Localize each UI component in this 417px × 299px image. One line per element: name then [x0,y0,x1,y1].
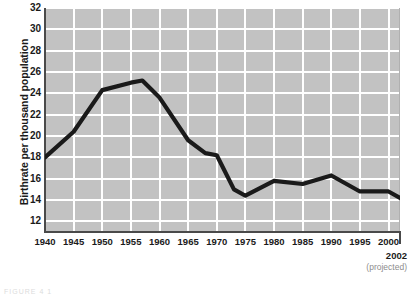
y-tick-label: 18 [1,151,41,162]
chart-figure: Birthrate per thousand population 121416… [0,0,417,299]
y-tick-label: 12 [1,215,41,226]
x-tick-label: 2000 [369,236,409,247]
birthrate-line-series [45,8,400,232]
projected-note-label: (projected) [366,262,407,272]
y-tick-label: 20 [1,130,41,141]
y-tick-label: 14 [1,194,41,205]
y-tick-label: 16 [1,173,41,184]
y-tick-label: 24 [1,87,41,98]
y-tick-label: 26 [1,66,41,77]
projected-annotation: 2002 (projected) [366,250,407,272]
x-axis-tick-labels: 1940194519501955196019651970197519801985… [0,236,417,252]
y-tick-label: 28 [1,45,41,56]
y-tick-label: 32 [1,2,41,13]
y-tick-label: 22 [1,109,41,120]
figure-caption: FIGURE 4 1 [4,288,52,295]
y-axis-tick-labels: 1214161820222426283032 [0,0,41,299]
y-tick-label: 30 [1,23,41,34]
projected-year-label: 2002 [366,250,407,261]
